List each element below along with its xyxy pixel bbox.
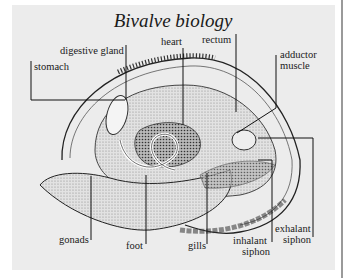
label-adductor-muscle-line2: muscle [280, 60, 310, 71]
diagram-title: Bivalve biology [0, 10, 346, 32]
label-inhalant-siphon-line2: siphon [242, 246, 270, 257]
label-stomach: stomach [34, 61, 69, 72]
label-gills: gills [188, 240, 206, 251]
label-inhalant-siphon-line1: inhalant [233, 235, 267, 246]
label-heart: heart [161, 36, 182, 47]
label-exhalant-siphon-line1: exhalant [275, 223, 311, 234]
label-gonads: gonads [59, 234, 89, 245]
label-digestive-gland: digestive gland [60, 45, 124, 56]
label-rectum: rectum [202, 34, 231, 45]
label-foot: foot [126, 240, 143, 251]
label-adductor-muscle-line1: adductor [280, 49, 317, 60]
label-exhalant-siphon-line2: siphon [283, 234, 311, 245]
